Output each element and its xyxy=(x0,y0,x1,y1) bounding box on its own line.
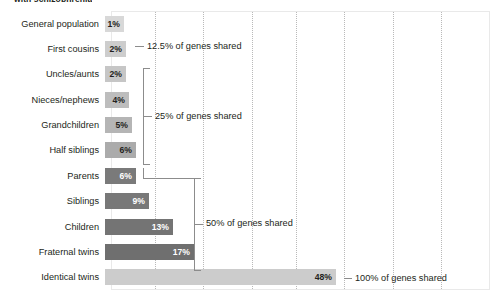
table-row: Uncles/aunts 2% xyxy=(0,62,497,87)
chart-headline: with schizophrenia xyxy=(14,0,92,2)
bar-value-label: 6% xyxy=(120,171,132,181)
category-label: General population xyxy=(0,19,105,29)
annotation-25-percent: 25% of genes shared xyxy=(155,111,242,121)
category-label: Identical twins xyxy=(0,272,105,282)
bar: 9% xyxy=(105,193,149,209)
bracket-arm-top xyxy=(194,178,201,179)
bracket-50-percent xyxy=(194,178,204,271)
bar-value-label: 13% xyxy=(152,222,169,232)
bar-track: 4% xyxy=(105,87,497,112)
bracket-arm-top xyxy=(143,68,150,69)
table-row: Parents 6% xyxy=(0,163,497,188)
category-label: Children xyxy=(0,222,105,232)
bracket-arm-bottom xyxy=(143,164,150,165)
bracket-stub xyxy=(143,116,152,117)
genetic-risk-bar-chart: with schizophrenia General population 1%… xyxy=(0,0,497,305)
table-row: Nieces/nephews 4% xyxy=(0,87,497,112)
category-label: Nieces/nephews xyxy=(0,95,105,105)
connector-parents-top xyxy=(143,178,195,179)
bar: 6% xyxy=(105,142,136,158)
category-label: Half siblings xyxy=(0,145,105,155)
bar-value-label: 2% xyxy=(110,69,122,79)
bar-value-label: 9% xyxy=(133,196,145,206)
annotation-50-percent: 50% of genes shared xyxy=(206,218,293,228)
bar: 2% xyxy=(105,41,126,57)
bracket-stub xyxy=(194,224,203,225)
connector-parents-vertical xyxy=(143,168,145,179)
bar-value-label: 1% xyxy=(108,19,120,29)
bar-track: 6% xyxy=(105,138,497,163)
table-row: General population 1% xyxy=(0,11,497,36)
category-label: Uncles/aunts xyxy=(0,69,105,79)
bar-value-label: 4% xyxy=(113,95,125,105)
bar-track: 6% xyxy=(105,163,497,188)
bar-track: 13% xyxy=(105,214,497,239)
table-row: Grandchildren 5% xyxy=(0,112,497,137)
bar-value-label: 17% xyxy=(173,247,190,257)
bar-track: 2% xyxy=(105,62,497,87)
bar-value-label: 48% xyxy=(315,272,332,282)
bracket-25-percent xyxy=(143,68,153,165)
bar-rows: General population 1% First cousins 2% U… xyxy=(0,11,497,290)
bar: 17% xyxy=(105,244,194,260)
bar: 2% xyxy=(105,66,126,82)
category-label: Parents xyxy=(0,171,105,181)
category-label: Grandchildren xyxy=(0,120,105,130)
bar-value-label: 6% xyxy=(120,145,132,155)
category-label: Fraternal twins xyxy=(0,247,105,257)
bar-value-label: 5% xyxy=(116,120,128,130)
category-label: Siblings xyxy=(0,196,105,206)
annotation-12-5-percent: 12.5% of genes shared xyxy=(147,41,242,51)
table-row: Fraternal twins 17% xyxy=(0,239,497,264)
bar: 5% xyxy=(105,117,132,133)
bar-track: 9% xyxy=(105,189,497,214)
bar-value-label: 2% xyxy=(110,44,122,54)
annotation-dash-100 xyxy=(344,278,352,279)
table-row: Half siblings 6% xyxy=(0,138,497,163)
bracket-arm-bottom xyxy=(194,270,201,271)
annotation-100-percent: 100% of genes shared xyxy=(355,273,447,283)
annotation-dash-12-5 xyxy=(135,46,144,47)
bar-track: 1% xyxy=(105,11,497,36)
bar-track: 17% xyxy=(105,239,497,264)
bar: 6% xyxy=(105,168,136,184)
bar: 48% xyxy=(105,269,336,285)
bar: 13% xyxy=(105,219,173,235)
table-row: Siblings 9% xyxy=(0,189,497,214)
table-row: First cousins 2% xyxy=(0,36,497,61)
category-label: First cousins xyxy=(0,44,105,54)
bar: 1% xyxy=(105,16,124,32)
bar: 4% xyxy=(105,92,129,108)
